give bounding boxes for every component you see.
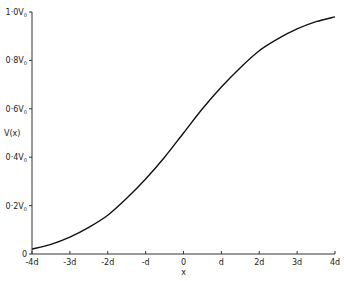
x-tick-label: -2d [101,258,114,267]
y-tick-label: 0·2V0 [6,202,27,212]
y-tick-label: 0·6V0 [6,105,27,115]
y-tick-label: 1·0V0 [6,8,27,18]
vx-curve [32,17,335,249]
y-axis-label: V(x) [4,129,20,138]
x-axis-label: x [181,268,186,277]
x-tick-label: 4d [330,258,340,267]
x-tick-label: 0 [181,258,186,267]
x-tick-label: -3d [63,258,76,267]
chart: 00·2V00·4V00·6V00·8V01·0V0-4d-3d-2d-d0d2… [0,0,344,281]
x-tick-label: d [219,258,224,267]
x-tick-label: 2d [254,258,264,267]
x-tick-label: -d [142,258,150,267]
x-tick-label: 3d [292,258,302,267]
x-tick-label: -4d [25,258,38,267]
y-tick-label: 0·4V0 [6,153,27,163]
y-tick-label: 0·8V0 [6,56,27,66]
